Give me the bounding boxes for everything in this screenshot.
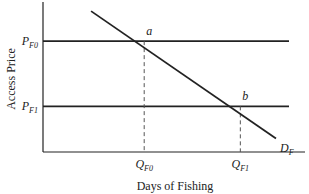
quantity-label-q-f0: QF0 bbox=[135, 157, 153, 173]
quantity-label-q-f1: QF1 bbox=[232, 157, 250, 173]
point-label-a: a bbox=[146, 24, 152, 38]
point-label-b: b bbox=[242, 89, 248, 103]
price-label-p-f0: PF0 bbox=[21, 34, 38, 50]
demand-curve-label: DF bbox=[279, 141, 294, 157]
y-axis-label: Access Price bbox=[4, 48, 18, 110]
price-label-p-f1: PF1 bbox=[21, 99, 38, 115]
demand-curve bbox=[91, 11, 276, 138]
x-axis-label: Days of Fishing bbox=[137, 179, 214, 193]
fishing-access-price-chart: PF0PF1QF0QF1DFab Access Price Days of Fi… bbox=[0, 0, 309, 194]
